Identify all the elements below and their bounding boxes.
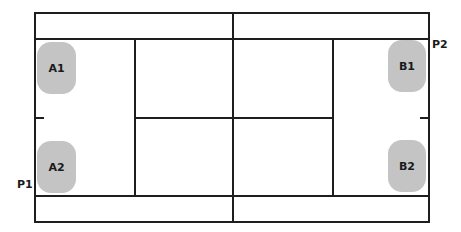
court-diagram: A1 A2 B1 B2 P1 P2 [0,0,461,232]
player-b2: B2 [388,140,426,192]
player-a2-label: A2 [48,161,64,174]
center-line [134,117,334,119]
player-b1: B1 [388,40,426,92]
player-a1-label: A1 [48,62,64,75]
player-b1-label: B1 [399,60,415,73]
side-label-p1: P1 [17,178,33,191]
player-a1: A1 [37,42,76,94]
right-center-tick [420,117,430,119]
player-b2-label: B2 [399,160,415,173]
player-a2: A2 [37,141,76,193]
side-label-p2: P2 [432,38,448,51]
left-center-tick [34,117,44,119]
